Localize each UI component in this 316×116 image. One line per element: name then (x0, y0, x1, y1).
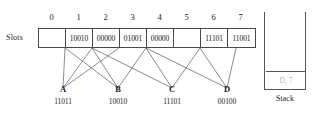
column-header-7: 7 (227, 12, 254, 23)
slot-cell-7[interactable]: 11001 (228, 29, 255, 47)
edge-slot3-A (63, 48, 119, 88)
slot-cell-5[interactable] (174, 29, 201, 47)
slot-cell-3[interactable]: 01001 (120, 29, 147, 47)
edge-slot4-C (146, 48, 172, 88)
column-header-3: 3 (119, 12, 146, 23)
edge-slot6-C (172, 48, 200, 88)
column-header-4: 4 (146, 12, 173, 23)
slot-cell-1[interactable]: 10010 (66, 29, 93, 47)
column-header-2: 2 (92, 12, 119, 23)
key-label-b: B (98, 84, 138, 95)
slot-cell-2[interactable]: 00000 (93, 29, 120, 47)
edge-slot7-D (227, 48, 236, 88)
key-value-c: 11101 (148, 97, 196, 107)
edge-slot4-B (118, 48, 146, 88)
edge-slot1-A (63, 48, 65, 88)
key-label-c: C (152, 84, 192, 95)
stack-body: D, 7 (264, 12, 306, 90)
column-header-6: 6 (200, 12, 227, 23)
stack-container: D, 7 (264, 12, 306, 90)
key-value-a: 11011 (39, 97, 87, 107)
slot-cell-0[interactable] (39, 29, 66, 47)
edge-slot2-A (63, 48, 92, 88)
edge-slot6-D (200, 48, 227, 88)
key-label-a: A (43, 84, 83, 95)
slots-table: 10010 00000 01001 00000 11101 11001 (38, 28, 256, 48)
column-header-1: 1 (65, 12, 92, 23)
edge-slot1-B (65, 48, 118, 88)
edge-slot2-C (92, 48, 172, 88)
slots-row-label: Slots (6, 33, 23, 43)
key-value-b: 10010 (94, 97, 142, 107)
column-header-0: 0 (38, 12, 65, 23)
slot-cell-6[interactable]: 11101 (201, 29, 228, 47)
key-label-d: D (207, 84, 247, 95)
slot-cell-4[interactable]: 00000 (147, 29, 174, 47)
stack-top-entry[interactable]: D, 7 (266, 71, 306, 88)
edge-slot2-B (92, 48, 118, 88)
stack-caption: Stack (262, 94, 308, 104)
diagram-canvas: 0 1 2 3 4 5 6 7 Slots 10010 00000 01001 … (0, 0, 316, 116)
key-value-d: 00100 (203, 97, 251, 107)
edge-slot4-D (146, 48, 227, 88)
column-header-5: 5 (173, 12, 200, 23)
